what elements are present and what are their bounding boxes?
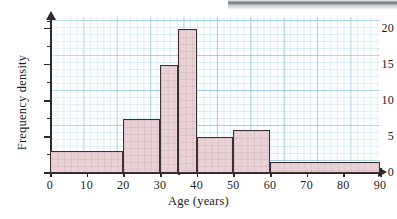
x-axis-tick-label: 70 <box>300 178 313 193</box>
x-axis-tick-label: 30 <box>154 178 167 193</box>
y-axis-minor-tick <box>47 21 52 22</box>
y-axis-tick <box>44 100 52 102</box>
histogram-bar <box>123 119 160 173</box>
x-axis-tick-label: 90 <box>374 178 387 193</box>
x-axis-tick-label: 20 <box>117 178 130 193</box>
histogram-bar <box>197 137 234 173</box>
histogram-bar <box>178 29 196 173</box>
y-axis-line <box>50 18 52 173</box>
y-axis-tick <box>44 64 52 66</box>
histogram-bar <box>160 65 178 173</box>
x-axis-title: Age (years) <box>0 194 397 209</box>
x-axis-tick-label: 50 <box>227 178 240 193</box>
x-axis-tick-label: 0 <box>47 178 53 193</box>
histogram-chart: 0102030405060708090 05101520 Age (years)… <box>0 0 397 219</box>
x-axis-tick-label: 60 <box>264 178 277 193</box>
y-axis-tick <box>44 28 52 30</box>
x-axis-tick-label: 10 <box>80 178 93 193</box>
histogram-bar <box>50 151 123 173</box>
y-axis-tick <box>44 136 52 138</box>
y-axis-minor-tick <box>47 82 52 83</box>
histogram-bar <box>233 130 270 173</box>
y-axis-tick-label: 20 <box>355 20 397 35</box>
x-axis-tick-label: 40 <box>190 178 203 193</box>
y-axis-tick-label: 5 <box>355 128 397 143</box>
y-axis-title: Frequency density <box>15 23 30 183</box>
histogram-bar <box>270 162 380 173</box>
x-axis-tick-label: 80 <box>337 178 350 193</box>
y-axis-tick-label: 10 <box>355 92 397 107</box>
histogram-bars <box>50 17 380 173</box>
y-axis-minor-tick <box>47 46 52 47</box>
y-axis-minor-tick <box>47 118 52 119</box>
y-axis-arrowhead <box>46 11 56 20</box>
y-axis-tick-label: 15 <box>355 56 397 71</box>
